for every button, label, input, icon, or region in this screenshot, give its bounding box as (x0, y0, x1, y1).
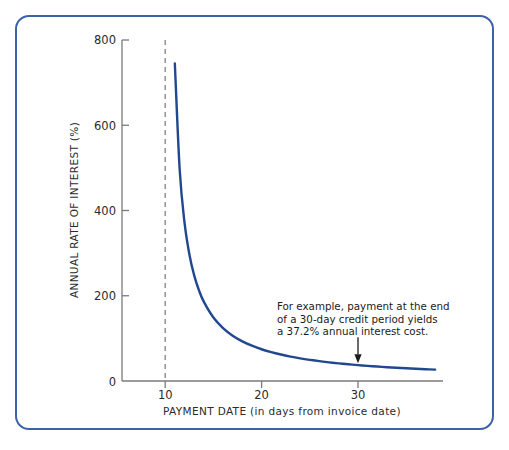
x-tick-label-10: 10 (158, 388, 173, 402)
y-tick-label-600: 600 (94, 119, 116, 133)
y-axis-tick-labels: 800 600 400 200 0 (94, 33, 116, 389)
y-axis-title: ANNUAL RATE OF INTEREST (%) (68, 122, 80, 298)
callout-line-3: a 37.2% annual interest cost. (277, 325, 428, 337)
x-tick-label-20: 20 (254, 388, 269, 402)
y-tick-label-800: 800 (94, 33, 116, 47)
y-tick-label-200: 200 (94, 289, 116, 303)
y-axis-ticks (122, 40, 129, 296)
x-axis-ticks (165, 381, 358, 388)
figure-root: 800 600 400 200 0 10 20 30 For (0, 0, 509, 450)
y-tick-label-400: 400 (94, 204, 116, 218)
example-callout-arrow (354, 337, 361, 363)
example-callout-text: For example, payment at the end of a 30-… (277, 300, 450, 337)
x-axis-title: PAYMENT DATE (in days from invoice date) (163, 405, 401, 417)
x-tick-label-30: 30 (351, 388, 366, 402)
callout-line-2: of a 30-day credit period yields (277, 313, 438, 325)
callout-line-1: For example, payment at the end (277, 300, 450, 312)
y-tick-label-0: 0 (109, 375, 116, 389)
interest-rate-chart: 800 600 400 200 0 10 20 30 For (0, 0, 509, 450)
x-axis-tick-labels: 10 20 30 (158, 388, 365, 402)
